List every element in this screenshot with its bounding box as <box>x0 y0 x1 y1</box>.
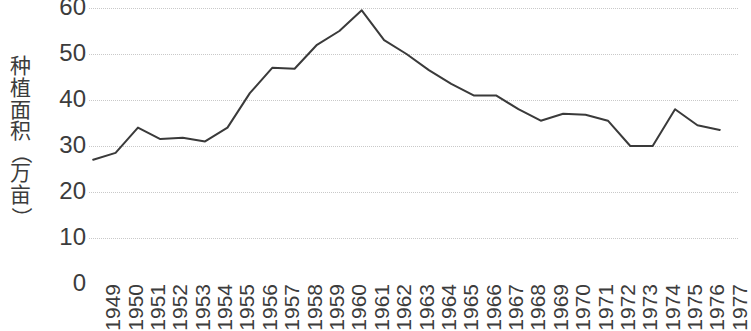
x-axis-tick-label: 1951 <box>147 284 168 331</box>
y-axis-title-char: 万 <box>10 163 31 185</box>
y-axis-title-char: 种 <box>10 56 31 78</box>
x-axis-tick-label: 1955 <box>236 284 257 331</box>
x-axis-tick-label: 1956 <box>259 284 280 331</box>
y-axis-tick-label: 60 <box>34 0 86 19</box>
x-axis-tick-label: 1959 <box>326 284 347 331</box>
x-axis-tick-label: 1963 <box>416 284 437 331</box>
x-axis-tick-label: 1970 <box>572 284 593 331</box>
y-axis-title-char: 植 <box>10 78 31 100</box>
x-axis-tick-label: 1977 <box>729 284 750 331</box>
y-axis-title-char: （ <box>10 143 30 164</box>
y-axis-tick-label: 50 <box>34 41 86 65</box>
x-axis-tick-label: 1969 <box>550 284 571 331</box>
x-axis-tick-label: 1968 <box>527 284 548 331</box>
x-axis-tick-label: 1971 <box>595 284 616 331</box>
x-axis-tick-label: 1952 <box>169 284 190 331</box>
y-axis-title-char: ） <box>10 206 30 227</box>
x-axis-tick-label: 1962 <box>393 284 414 331</box>
x-axis-tick-label: 1957 <box>281 284 302 331</box>
y-axis-tick-label: 30 <box>34 133 86 157</box>
x-axis-tick-label: 1960 <box>348 284 369 331</box>
x-axis-tick-label: 1961 <box>371 284 392 331</box>
x-axis-tick-label: 1964 <box>438 284 459 331</box>
x-axis-tick-label: 1958 <box>304 284 325 331</box>
y-axis-tick-label: 20 <box>34 179 86 203</box>
y-axis-tick-label: 40 <box>34 87 86 111</box>
x-axis-tick-label: 1965 <box>460 284 481 331</box>
series-polyline <box>93 10 720 160</box>
y-axis-title-char: 面 <box>10 100 31 122</box>
x-axis-tick-label: 1972 <box>617 284 638 331</box>
x-axis-tick-label: 1976 <box>706 284 727 331</box>
x-axis-tick-label: 1973 <box>639 284 660 331</box>
y-axis-title-char: 亩 <box>10 185 31 207</box>
x-axis-tick-label: 1967 <box>505 284 526 331</box>
x-axis-tick-labels: 1949195019511952195319541955195619571958… <box>89 284 744 324</box>
y-axis-title-char: 积 <box>10 121 31 143</box>
y-axis-tick-label: 0 <box>34 271 86 295</box>
y-axis-tick-label: 10 <box>34 225 86 249</box>
x-axis-tick-label: 1966 <box>483 284 504 331</box>
x-axis-tick-label: 1953 <box>192 284 213 331</box>
x-axis-tick-label: 1949 <box>102 284 123 331</box>
y-axis-tick-labels: 0102030405060 <box>30 0 86 300</box>
x-axis-tick-label: 1950 <box>125 284 146 331</box>
x-axis-tick-label: 1975 <box>684 284 705 331</box>
data-series-line <box>89 8 738 284</box>
plot-area <box>89 8 738 284</box>
x-axis-tick-label: 1954 <box>214 284 235 331</box>
x-axis-tick-label: 1974 <box>662 284 683 331</box>
